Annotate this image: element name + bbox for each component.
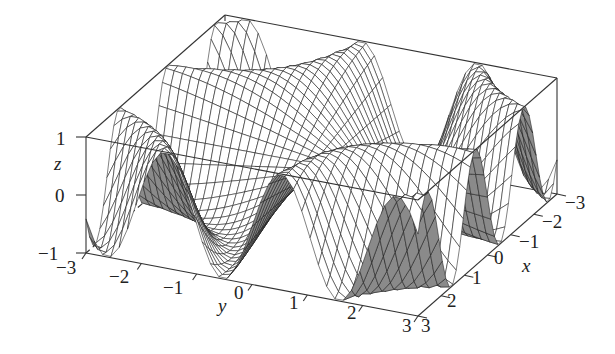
y-tick-1: 1: [289, 293, 299, 312]
y-tick-3: 3: [402, 316, 412, 335]
x-axis-label: x: [522, 256, 530, 275]
x-tick-2: 2: [447, 291, 457, 310]
y-tick-neg2: −2: [109, 267, 129, 286]
x-tick-1: 1: [472, 268, 482, 287]
y-tick-0: 0: [234, 283, 244, 302]
y-tick-neg3: −3: [56, 258, 76, 277]
x-tick-neg2: −2: [542, 212, 562, 231]
x-tick-neg3: −3: [565, 193, 585, 212]
z-axis-label: z: [54, 154, 61, 173]
y-axis-label: y: [218, 296, 226, 315]
z-tick-0: 0: [55, 186, 65, 205]
surface-plot: [0, 0, 615, 354]
surface-mesh: [86, 20, 557, 300]
y-tick-2: 2: [347, 303, 357, 322]
x-tick-neg1: −1: [519, 232, 539, 251]
x-tick-0: 0: [494, 248, 504, 267]
x-tick-3: 3: [421, 316, 431, 335]
z-tick-1: 1: [56, 129, 66, 148]
y-tick-neg1: −1: [163, 278, 183, 297]
